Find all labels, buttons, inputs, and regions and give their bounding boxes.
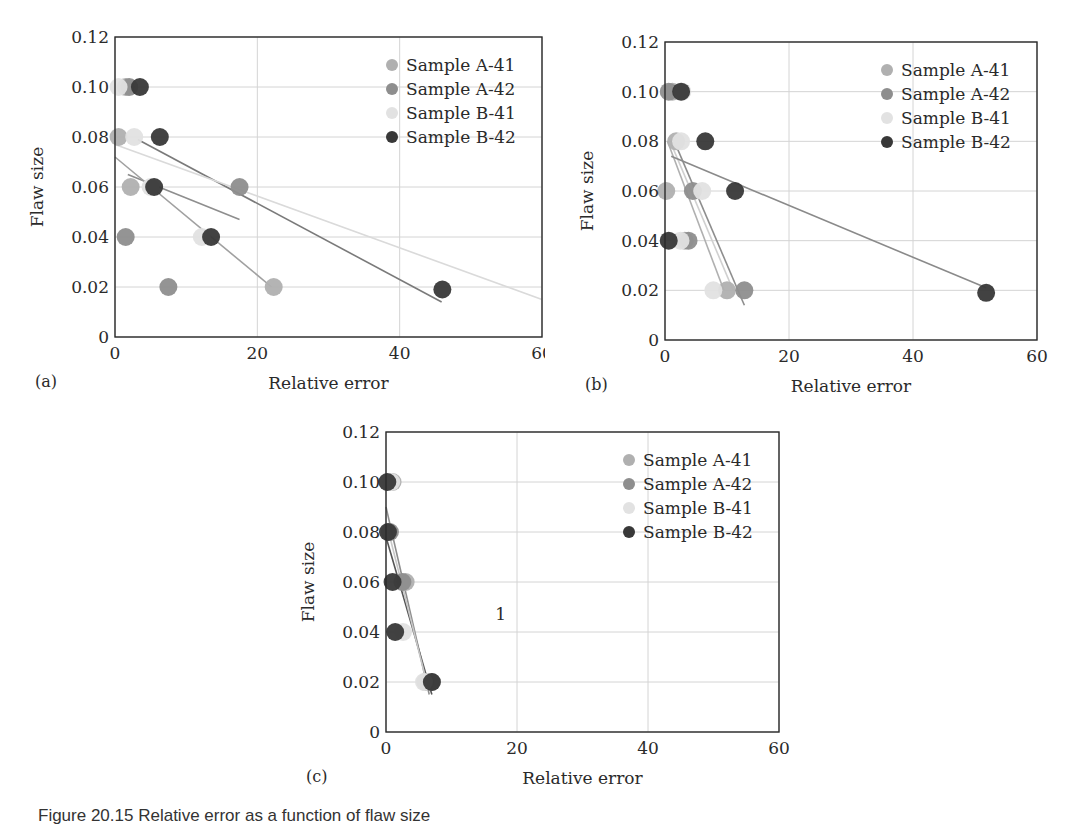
y-tick-label: 0.06 bbox=[621, 181, 659, 201]
legend-item-label: Sample B-42 bbox=[643, 522, 753, 542]
y-tick-label: 0.02 bbox=[71, 277, 109, 297]
chart-panel-c: 00.020.040.060.080.100.120204060Relative… bbox=[290, 400, 810, 800]
x-tick-label: 60 bbox=[768, 738, 790, 758]
y-tick-label: 0 bbox=[369, 722, 380, 742]
data-point bbox=[386, 623, 404, 641]
legend-marker-icon bbox=[386, 107, 398, 119]
data-point bbox=[231, 178, 249, 196]
y-tick-label: 0 bbox=[98, 327, 109, 347]
data-point bbox=[117, 228, 135, 246]
data-point bbox=[145, 178, 163, 196]
y-tick-label: 0.04 bbox=[621, 231, 659, 251]
x-tick-label: 40 bbox=[637, 738, 659, 758]
y-tick-label: 0.08 bbox=[71, 127, 109, 147]
y-tick-label: 0.04 bbox=[71, 227, 109, 247]
trendlines bbox=[667, 141, 986, 305]
legend-item-label: Sample A-41 bbox=[643, 450, 752, 470]
data-point bbox=[131, 78, 149, 96]
x-tick-label: 60 bbox=[1026, 346, 1048, 366]
legend: Sample A-41Sample A-42Sample B-41Sample … bbox=[386, 55, 516, 147]
legend-item-label: Sample B-41 bbox=[901, 108, 1011, 128]
y-axis-label: Flaw size bbox=[298, 542, 318, 623]
data-point bbox=[672, 83, 690, 101]
x-axis-label: Relative error bbox=[522, 768, 643, 788]
legend-marker-icon bbox=[623, 502, 635, 514]
legend-item-label: Sample B-42 bbox=[901, 132, 1011, 152]
trendline bbox=[671, 156, 986, 288]
x-tick-label: 20 bbox=[778, 346, 800, 366]
trendline bbox=[389, 532, 428, 687]
legend-marker-icon bbox=[623, 478, 635, 490]
x-tick-label: 0 bbox=[110, 343, 121, 363]
figure-caption: Figure 20.15 Relative error as a functio… bbox=[38, 806, 430, 826]
data-point bbox=[693, 182, 711, 200]
y-tick-label: 0.06 bbox=[71, 177, 109, 197]
data-point bbox=[657, 182, 675, 200]
legend-item-label: Sample B-42 bbox=[406, 127, 516, 147]
legend: Sample A-41Sample A-42Sample B-41Sample … bbox=[623, 450, 753, 542]
y-tick-label: 0.12 bbox=[342, 422, 380, 442]
x-tick-label: 0 bbox=[381, 738, 392, 758]
legend-marker-icon bbox=[623, 526, 635, 538]
trendlines bbox=[115, 140, 542, 303]
chart-panel-b: 00.020.040.060.080.100.120204060Relative… bbox=[545, 0, 1086, 400]
legend-marker-icon bbox=[881, 112, 893, 124]
data-point bbox=[423, 673, 441, 691]
x-axis-label: Relative error bbox=[791, 376, 912, 396]
x-tick-label: 0 bbox=[660, 346, 671, 366]
legend-marker-icon bbox=[386, 131, 398, 143]
chart-a-svg: 00.020.040.060.080.100.120204060Relative… bbox=[0, 0, 545, 400]
data-point bbox=[378, 473, 396, 491]
y-tick-label: 0.04 bbox=[342, 622, 380, 642]
legend-marker-icon bbox=[881, 64, 893, 76]
data-point bbox=[265, 278, 283, 296]
y-tick-label: 0.10 bbox=[342, 472, 380, 492]
panel-label: (c) bbox=[306, 767, 327, 786]
legend-item-label: Sample B-41 bbox=[406, 103, 516, 123]
x-tick-label: 20 bbox=[506, 738, 528, 758]
y-tick-label: 0.08 bbox=[621, 131, 659, 151]
data-point bbox=[202, 228, 220, 246]
trendline bbox=[115, 157, 272, 287]
data-point bbox=[977, 284, 995, 302]
y-tick-label: 0.06 bbox=[342, 572, 380, 592]
legend-item-label: Sample A-42 bbox=[901, 84, 1010, 104]
legend-marker-icon bbox=[386, 83, 398, 95]
legend-marker-icon bbox=[881, 88, 893, 100]
x-tick-label: 40 bbox=[902, 346, 924, 366]
legend: Sample A-41Sample A-42Sample B-41Sample … bbox=[881, 60, 1011, 152]
data-point bbox=[159, 278, 177, 296]
data-point bbox=[696, 132, 714, 150]
y-tick-label: 0 bbox=[648, 330, 659, 350]
trendline bbox=[115, 145, 542, 300]
legend-item-label: Sample A-41 bbox=[901, 60, 1010, 80]
data-point bbox=[151, 128, 169, 146]
data-point bbox=[672, 132, 690, 150]
legend-marker-icon bbox=[623, 454, 635, 466]
data-point bbox=[379, 523, 397, 541]
data-point bbox=[735, 281, 753, 299]
trendline bbox=[671, 144, 733, 291]
annotation-label: 1 bbox=[495, 604, 506, 624]
legend-item-label: Sample A-42 bbox=[406, 79, 515, 99]
chart-panel-a: 00.020.040.060.080.100.120204060Relative… bbox=[0, 0, 545, 400]
y-axis-label: Flaw size bbox=[27, 147, 47, 228]
legend-marker-icon bbox=[881, 136, 893, 148]
data-point bbox=[110, 78, 128, 96]
y-tick-label: 0.10 bbox=[71, 77, 109, 97]
trendline bbox=[674, 141, 744, 305]
legend-marker-icon bbox=[386, 59, 398, 71]
legend-item-label: Sample A-42 bbox=[643, 474, 752, 494]
data-point bbox=[433, 281, 451, 299]
data-point bbox=[110, 128, 128, 146]
data-point bbox=[660, 232, 678, 250]
data-point bbox=[122, 178, 140, 196]
legend-item-label: Sample A-41 bbox=[406, 55, 515, 75]
data-point bbox=[704, 281, 722, 299]
panel-label: (a) bbox=[35, 372, 57, 391]
y-tick-label: 0.02 bbox=[621, 280, 659, 300]
y-tick-label: 0.02 bbox=[342, 672, 380, 692]
y-tick-label: 0.12 bbox=[71, 27, 109, 47]
y-tick-label: 0.10 bbox=[621, 82, 659, 102]
x-tick-label: 40 bbox=[389, 343, 411, 363]
